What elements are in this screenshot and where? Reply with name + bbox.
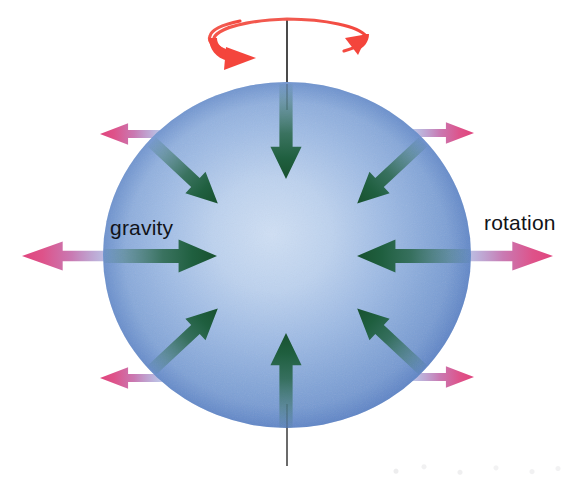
gravity-label: gravity	[110, 216, 173, 240]
figure-root: gravity rotation	[0, 0, 578, 484]
spin-arrowhead-right	[345, 34, 369, 55]
rotating-body-diagram	[0, 0, 578, 484]
spin-arrowhead-left	[209, 38, 256, 70]
spin-ring	[209, 19, 369, 70]
rotation-label: rotation	[484, 211, 556, 235]
